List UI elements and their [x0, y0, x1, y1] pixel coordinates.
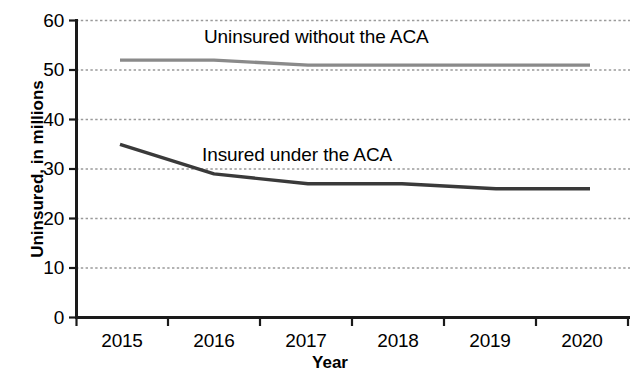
series-label-insured-under-aca: Insured under the ACA	[202, 145, 392, 165]
series-label-uninsured-without-aca: Uninsured without the ACA	[204, 27, 429, 47]
y-tick-label-60: 60	[22, 11, 64, 30]
x-tick-label-2015: 2015	[76, 331, 168, 350]
x-axis-title: Year	[270, 354, 390, 372]
y-tick-label-0: 0	[22, 308, 64, 327]
plot-area	[0, 0, 630, 374]
x-tick-label-2019: 2019	[444, 331, 536, 350]
x-tick-label-2018: 2018	[352, 331, 444, 350]
y-axis-title: Uninsured, in millions	[29, 59, 47, 279]
series-line-uninsured-without-aca	[120, 60, 590, 65]
line-chart: 60 50 40 30 20 10 0 2015 2016 2017 2018 …	[0, 0, 630, 374]
x-tick-label-2017: 2017	[260, 331, 352, 350]
x-tick-label-2020: 2020	[536, 331, 628, 350]
x-tick-label-2016: 2016	[168, 331, 260, 350]
